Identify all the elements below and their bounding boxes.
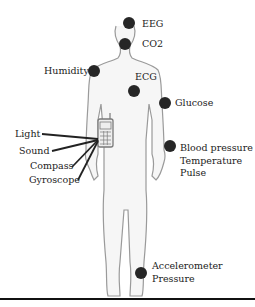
label-accelerometer: Accelerometer	[151, 260, 223, 271]
label-co2: CO2	[142, 38, 163, 49]
bottom-rule	[0, 298, 255, 300]
sensor-dot-ecg	[128, 85, 140, 97]
label-gyroscope: Gyroscope	[29, 174, 80, 185]
label-glucose: Glucose	[175, 97, 214, 108]
label-light: Light	[15, 128, 41, 139]
sensor-dot-wrist	[164, 140, 176, 152]
label-humidity: Humidity	[44, 65, 89, 76]
sensor-dot-ankle	[135, 267, 147, 279]
label-pulse: Pulse	[180, 167, 206, 178]
label-eeg: EEG	[142, 18, 163, 29]
label-ecg: ECG	[135, 71, 157, 82]
sensor-dot-eeg	[123, 17, 135, 29]
label-compass: Compass	[30, 160, 74, 171]
label-pressure: Pressure	[152, 273, 195, 284]
sensor-dot-co2	[119, 38, 131, 50]
label-blood-pressure: Blood pressure	[180, 142, 253, 153]
body-sensor-diagram: EEG CO2 Humidity ECG Glucose Blood press…	[0, 0, 255, 307]
label-temperature: Temperature	[180, 155, 243, 166]
sensor-dot-glucose	[159, 97, 171, 109]
label-sound: Sound	[19, 145, 50, 156]
sensor-dot-humidity	[88, 65, 100, 77]
